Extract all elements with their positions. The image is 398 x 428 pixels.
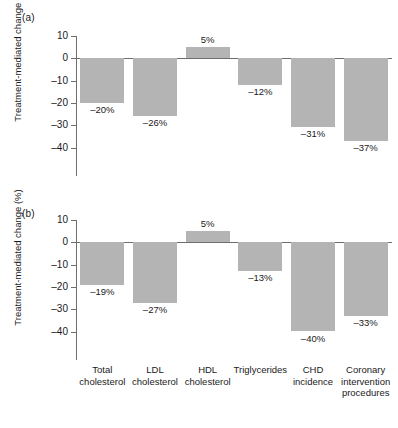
- x-axis-category-labels: TotalcholesterolLDLcholesterolHDLcholest…: [76, 364, 392, 424]
- figure-bar-chart-treatment-mediated-change: (a) Treatment-mediated change (%) 100–10…: [0, 0, 398, 428]
- bar-a-2: [186, 47, 230, 58]
- panel-b-plot-area: 100–10–20–30–40–19%–27%5%–13%–40%–33%: [76, 220, 392, 360]
- bar-a-0: [80, 58, 124, 103]
- bar-b-4: [291, 242, 335, 331]
- b-y-tick-0: [71, 242, 76, 243]
- a-y-tick-neg40: [71, 148, 76, 149]
- b-y-tick-label-neg20: –20: [28, 282, 68, 292]
- a-y-tick-label-10: 10: [28, 31, 68, 41]
- b-y-tick-neg10: [71, 265, 76, 266]
- bar-value-a-4: –31%: [283, 129, 343, 139]
- bar-value-a-1: –26%: [125, 118, 185, 128]
- a-y-tick-label-neg10: –10: [28, 76, 68, 86]
- panel-a-label: (a): [22, 12, 35, 23]
- bar-value-b-2: 5%: [178, 219, 238, 229]
- panel-a-y-axis-title: Treatment-mediated change (%): [12, 0, 23, 129]
- panel-a: (a) Treatment-mediated change (%) 100–10…: [0, 0, 398, 196]
- a-y-tick-label-neg30: –30: [28, 120, 68, 130]
- b-y-tick-label-0: 0: [28, 237, 68, 247]
- a-y-tick-0: [71, 58, 76, 59]
- a-y-tick-neg30: [71, 125, 76, 126]
- panel-a-plot-area: 100–10–20–30–40–20%–26%5%–12%–31%–37%: [76, 36, 392, 176]
- a-y-tick-label-0: 0: [28, 53, 68, 63]
- bar-a-3: [238, 58, 282, 85]
- bar-b-5: [344, 242, 388, 316]
- b-y-tick-label-10: 10: [28, 215, 68, 225]
- bar-a-5: [344, 58, 388, 141]
- b-y-tick-label-neg10: –10: [28, 260, 68, 270]
- b-y-tick-label-neg30: –30: [28, 304, 68, 314]
- a-y-tick-neg20: [71, 103, 76, 104]
- bar-b-1: [133, 242, 177, 302]
- bar-b-0: [80, 242, 124, 284]
- b-y-tick-10: [71, 220, 76, 221]
- bar-value-a-2: 5%: [178, 35, 238, 45]
- bar-a-4: [291, 58, 335, 127]
- bar-value-a-0: –20%: [72, 105, 132, 115]
- bar-value-a-3: –12%: [230, 87, 290, 97]
- b-y-tick-neg40: [71, 332, 76, 333]
- x-axis-label-5: Coronaryinterventionprocedures: [331, 364, 398, 399]
- bar-value-b-5: –33%: [336, 318, 396, 328]
- bar-value-b-4: –40%: [283, 334, 343, 344]
- a-y-tick-label-neg40: –40: [28, 143, 68, 153]
- panel-b-y-axis-title: Treatment-mediated change (%): [12, 183, 23, 333]
- a-y-tick-neg10: [71, 81, 76, 82]
- a-y-tick-10: [71, 36, 76, 37]
- b-y-tick-neg30: [71, 309, 76, 310]
- bar-b-2: [186, 231, 230, 242]
- bar-value-b-0: –19%: [72, 287, 132, 297]
- b-y-tick-label-neg40: –40: [28, 327, 68, 337]
- bar-value-a-5: –37%: [336, 143, 396, 153]
- bar-a-1: [133, 58, 177, 116]
- bar-value-b-1: –27%: [125, 305, 185, 315]
- a-y-tick-label-neg20: –20: [28, 98, 68, 108]
- bar-b-3: [238, 242, 282, 271]
- bar-value-b-3: –13%: [230, 273, 290, 283]
